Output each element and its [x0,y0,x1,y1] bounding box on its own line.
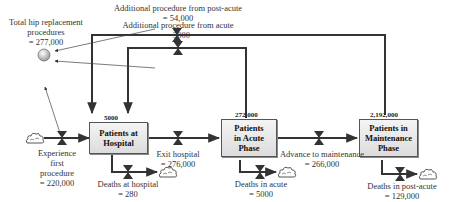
stock-label-line: Phase [234,143,264,153]
flow-label-deaths-acute: Deaths in acute= 5000 [228,179,294,199]
flow-label-additional-acute: Additional procedure from acute= 3000 [118,20,238,40]
stock-label-line: Patients [234,123,264,133]
stock-label-line: Maintenance [365,133,412,143]
stock-value-acute: 272,000 [235,111,258,119]
stock-patients-in-acute-phase[interactable]: Patientsin AcutePhase [221,119,277,157]
flow-label-deaths-postacute: Deaths in post-acute= 129,000 [362,181,442,201]
flow-label-experience-first: Experiencefirstprocedure= 220,000 [32,148,82,188]
stock-patients-in-maintenance-phase[interactable]: Patients inMaintenancePhase [359,119,418,157]
flow-label-deaths-hospital: Deaths at hospital= 280 [95,179,161,199]
stock-label-line: Hospital [99,138,137,148]
source-cloud-icon [26,133,43,143]
sink-cloud-postacute-icon [419,169,436,179]
flow-label-exit-hospital: Exit hospital= 276,000 [148,149,208,169]
total-procedures-label: Total hip replacement procedures = 277,0… [4,17,88,47]
stock-value-hospital: 5000 [104,114,118,122]
stock-label-line: Patients in [365,123,412,133]
stock-label-line: in Acute [234,133,264,143]
stock-patients-at-hospital[interactable]: Patients atHospital [89,122,148,154]
stock-value-maintenance: 2,192,000 [370,111,398,119]
stock-label-line: Phase [365,143,412,153]
flow-label-additional-postacute: Additional procedure from post-acute= 54… [108,3,248,23]
stock-label-line: Patients at [99,128,137,138]
flow-label-advance-maintenance: Advance to maintenance= 266,000 [277,149,367,169]
total-procedures-node [38,49,50,61]
